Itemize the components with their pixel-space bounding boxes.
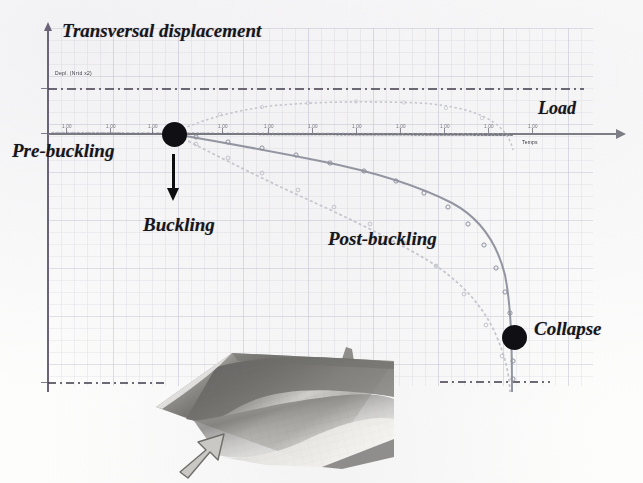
x-axis-sublabel: Temps — [522, 139, 538, 145]
block-arrow-shape — [180, 434, 224, 478]
figure-canvas: 1.00 1.00 1.00 1.00 1.00 1.00 1.00 1.00 … — [0, 0, 643, 483]
annotation-pre-buckling: Pre-buckling — [12, 140, 114, 162]
y-axis-micro-label: Depl. (Nrtd x2) — [55, 70, 92, 76]
y-axis-title: Transversal displacement — [62, 20, 261, 42]
x-axis-title: Load — [538, 98, 576, 119]
annotation-post-buckling: Post-buckling — [328, 228, 437, 250]
surface-pointer-arrow — [176, 428, 248, 480]
annotation-collapse: Collapse — [534, 318, 602, 340]
buckling-arrow-head — [167, 188, 179, 201]
collapse-point-marker — [502, 325, 527, 350]
buckling-arrow-shaft — [172, 154, 175, 192]
annotation-buckling: Buckling — [143, 214, 215, 236]
curve-markers-upper — [218, 100, 483, 120]
bifurcation-point-marker — [162, 122, 187, 147]
